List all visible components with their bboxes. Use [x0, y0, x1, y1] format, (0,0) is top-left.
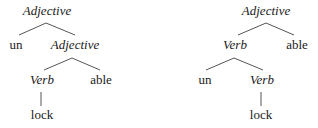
- right-lock-node: lock: [250, 108, 272, 122]
- tree-edge: [46, 23, 75, 35]
- tree-edge: [19, 23, 46, 35]
- left-able-node: able: [90, 73, 112, 87]
- tree-edge: [234, 58, 263, 70]
- left-root-adjective-node: Adjective: [23, 4, 71, 18]
- right-able-node: able: [286, 38, 308, 52]
- diagram-canvas: Adjective un Adjective Verb able lock Ad…: [0, 0, 318, 128]
- tree-edge: [206, 58, 234, 70]
- tree-edge: [72, 58, 100, 70]
- left-tree-edges: [19, 23, 100, 106]
- right-verb-node: Verb: [223, 38, 247, 52]
- tree-edge: [44, 58, 72, 70]
- right-un-node: un: [199, 73, 212, 87]
- tree-edge: [266, 23, 294, 35]
- right-root-adjective-node: Adjective: [242, 4, 290, 18]
- left-un-node: un: [10, 38, 23, 52]
- right-inner-verb-node: Verb: [250, 73, 274, 87]
- left-verb-node: Verb: [30, 73, 54, 87]
- tree-edge: [238, 23, 266, 35]
- right-tree-edges: [206, 23, 294, 106]
- left-adjective-node: Adjective: [51, 38, 99, 52]
- left-lock-node: lock: [31, 108, 53, 122]
